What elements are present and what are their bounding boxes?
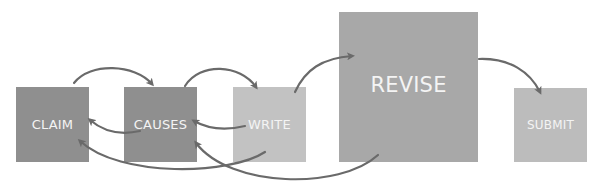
arrow-revise-to-causes	[196, 143, 378, 179]
arrow-write-to-revise	[295, 56, 352, 92]
arrow-write-to-claim	[80, 141, 265, 169]
arrow-claim-to-causes	[74, 68, 152, 84]
arrow-causes-to-write	[185, 69, 256, 87]
arrow-write-to-causes	[194, 121, 245, 129]
arrow-revise-to-submit	[479, 59, 540, 92]
arrow-causes-to-claim	[90, 120, 140, 133]
arrows-layer	[0, 0, 601, 192]
